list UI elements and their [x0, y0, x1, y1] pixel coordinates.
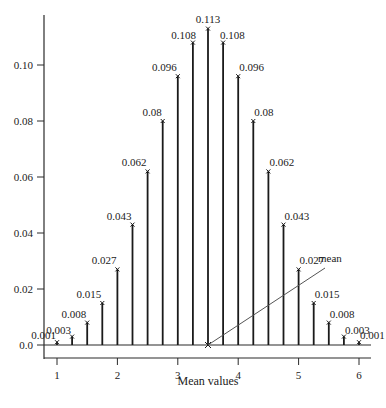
y-tick-label: 0.10	[14, 59, 34, 71]
y-tick-label: 0.04	[14, 227, 34, 239]
value-label: 0.113	[196, 13, 221, 25]
value-label: 0.108	[171, 29, 196, 41]
value-label: 0.062	[122, 156, 147, 168]
value-label: 0.043	[285, 210, 310, 222]
value-label: 0.008	[330, 308, 355, 320]
x-tick-label: 6	[356, 369, 362, 381]
value-label: 0.008	[61, 308, 86, 320]
value-label: 0.096	[152, 61, 177, 73]
value-label: 0.043	[107, 210, 132, 222]
value-label: 0.027	[92, 254, 117, 266]
mean-label: mean	[318, 252, 342, 264]
x-axis-label: Mean values	[178, 374, 239, 388]
y-tick-label: 0.02	[14, 283, 33, 295]
value-label: 0.08	[254, 106, 274, 118]
y-tick-label: 0.06	[14, 171, 34, 183]
value-label: 0.001	[360, 329, 385, 341]
x-tick-label: 5	[296, 369, 302, 381]
value-label: 0.108	[220, 29, 245, 41]
value-label: 0.096	[239, 61, 264, 73]
value-label: 0.003	[46, 324, 71, 336]
mean-leader-line	[208, 268, 325, 345]
x-tick-label: 2	[115, 369, 121, 381]
value-label: 0.062	[269, 156, 294, 168]
stem-chart: 0.00.020.040.060.080.10123456 0.0010.003…	[0, 0, 386, 408]
value-label: 0.08	[142, 106, 162, 118]
x-tick-label: 1	[54, 369, 60, 381]
y-tick-label: 0.08	[14, 115, 34, 127]
value-label: 0.015	[77, 288, 102, 300]
value-label: 0.015	[315, 288, 340, 300]
